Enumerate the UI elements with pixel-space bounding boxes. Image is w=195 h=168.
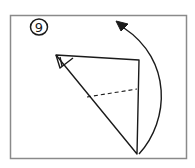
valley-fold-line	[87, 89, 137, 97]
diagram-frame	[11, 16, 187, 159]
triangle-outline	[56, 55, 139, 154]
step-number-badge: 9	[31, 19, 48, 35]
step-number: 9	[35, 20, 43, 35]
corner-flap-crease	[60, 57, 62, 66]
paper-shape	[56, 55, 139, 154]
origami-diagram: 9	[0, 0, 195, 168]
